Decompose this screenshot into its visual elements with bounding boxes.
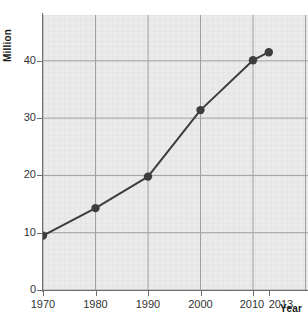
x-tick-label-1990: 1990 <box>126 298 170 310</box>
x-tick-label-1980: 1980 <box>74 298 118 310</box>
y-tick-mark-20 <box>37 175 43 176</box>
y-tick-label-40: 40 <box>6 54 36 66</box>
x-tick-mark-1990 <box>148 291 149 296</box>
x-tick-mark-2000 <box>201 291 202 296</box>
y-axis-line <box>42 13 43 292</box>
series-line <box>43 52 269 235</box>
data-series-population <box>43 15 308 290</box>
y-tick-mark-10 <box>37 233 43 234</box>
series-markers <box>43 48 273 240</box>
x-tick-mark-1980 <box>96 291 97 296</box>
y-tick-label-0: 0 <box>6 283 36 295</box>
plot-area <box>43 15 308 290</box>
y-tick-label-10: 10 <box>6 226 36 238</box>
x-tick-mark-2010 <box>253 291 254 296</box>
y-tick-label-20: 20 <box>6 168 36 180</box>
line-chart: Million <box>0 0 308 317</box>
y-tick-mark-40 <box>37 61 43 62</box>
x-axis-title: Year <box>280 303 302 314</box>
y-tick-mark-30 <box>37 118 43 119</box>
x-tick-mark-1970 <box>43 291 44 296</box>
y-tick-label-30: 30 <box>6 111 36 123</box>
x-tick-label-2000: 2000 <box>179 298 223 310</box>
x-tick-label-1970: 1970 <box>21 298 65 310</box>
x-tick-mark-2013 <box>269 291 270 296</box>
